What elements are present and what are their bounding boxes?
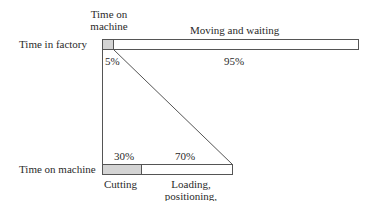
top-bar-moving-waiting — [103, 40, 359, 50]
moving-waiting-percent: 95% — [224, 55, 244, 67]
header-line-2: machine — [84, 20, 134, 32]
cutting-percent: 30% — [114, 150, 134, 162]
loading-percent: 70% — [175, 150, 195, 162]
time-on-machine-header: Time on machine — [84, 8, 134, 32]
header-line-1: Time on — [84, 8, 134, 20]
loading-caption: Loading, positioning, gaging, etc. — [156, 178, 226, 201]
moving-waiting-header: Moving and waiting — [190, 24, 279, 36]
bottom-bar-cutting-segment — [103, 165, 142, 175]
caption-line-1: Loading, — [156, 178, 226, 190]
cutting-caption: Cutting — [104, 178, 137, 190]
top-bar-machine-segment — [103, 40, 114, 50]
caption-line-2: positioning, — [156, 190, 226, 201]
machine-percent: 5% — [105, 55, 120, 67]
time-in-factory-label: Time in factory — [19, 38, 87, 50]
expansion-line-diagonal — [114, 50, 233, 165]
time-on-machine-label: Time on machine — [19, 163, 96, 175]
